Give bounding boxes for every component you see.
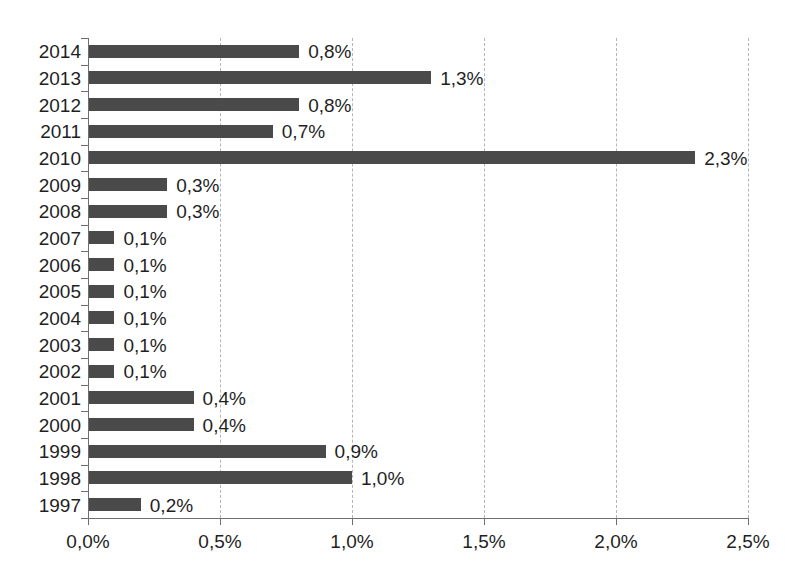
bar (88, 498, 141, 511)
y-axis-line (88, 38, 89, 518)
y-axis-tick (81, 385, 88, 386)
gridline (748, 38, 749, 518)
x-axis-label: 2,0% (594, 532, 637, 551)
y-axis-label: 2002 (0, 362, 81, 381)
bar-value-label: 0,8% (308, 42, 351, 61)
y-axis-label: 1997 (0, 496, 81, 515)
bar-value-label: 1,0% (361, 469, 404, 488)
y-axis-label: 2013 (0, 69, 81, 88)
bar-row: 0,1% (88, 251, 748, 278)
bar-row: 0,4% (88, 385, 748, 412)
y-axis-tick (81, 518, 88, 519)
y-axis-tick (81, 358, 88, 359)
bar-value-label: 0,3% (176, 202, 219, 221)
y-axis-tick (81, 118, 88, 119)
bar (88, 391, 194, 404)
bar (88, 338, 114, 351)
bar-row: 0,9% (88, 438, 748, 465)
bar (88, 71, 431, 84)
bar-value-label: 0,1% (123, 309, 166, 328)
y-axis-tick (81, 91, 88, 92)
y-axis-label: 2003 (0, 336, 81, 355)
bar-row: 2,3% (88, 145, 748, 172)
x-axis-tick (616, 518, 617, 525)
bar-value-label: 0,2% (150, 496, 193, 515)
x-axis-tick (88, 518, 89, 525)
bar-row: 0,1% (88, 278, 748, 305)
y-axis-tick (81, 491, 88, 492)
x-axis-label: 1,0% (330, 532, 373, 551)
y-axis-tick (81, 225, 88, 226)
bar (88, 178, 167, 191)
bar (88, 471, 352, 484)
y-axis-tick (81, 251, 88, 252)
bar-value-label: 0,9% (335, 442, 378, 461)
bar-value-label: 0,1% (123, 282, 166, 301)
bar-row: 0,2% (88, 491, 748, 518)
bar (88, 445, 326, 458)
bar-value-label: 0,1% (123, 229, 166, 248)
y-axis-tick (81, 65, 88, 66)
y-axis-tick (81, 171, 88, 172)
bar-row: 0,1% (88, 331, 748, 358)
y-axis-label: 2014 (0, 42, 81, 61)
y-axis-label: 1999 (0, 442, 81, 461)
y-axis-label: 2009 (0, 176, 81, 195)
bar-value-label: 0,3% (176, 176, 219, 195)
bar-row: 0,4% (88, 411, 748, 438)
x-axis-tick (220, 518, 221, 525)
bar-chart: 0,8%1,3%0,8%0,7%2,3%0,3%0,3%0,1%0,1%0,1%… (0, 0, 806, 585)
y-axis-label: 2004 (0, 309, 81, 328)
bar-value-label: 0,1% (123, 362, 166, 381)
bar (88, 365, 114, 378)
bar-row: 0,1% (88, 225, 748, 252)
bar-row: 0,3% (88, 198, 748, 225)
y-axis-label: 2012 (0, 96, 81, 115)
plot-area: 0,8%1,3%0,8%0,7%2,3%0,3%0,3%0,1%0,1%0,1%… (88, 38, 748, 518)
bar-value-label: 1,3% (440, 69, 483, 88)
bar (88, 231, 114, 244)
y-axis-tick (81, 438, 88, 439)
bar (88, 311, 114, 324)
bar-value-label: 2,3% (704, 149, 747, 168)
x-axis-label: 2,5% (726, 532, 769, 551)
y-axis-tick (81, 411, 88, 412)
y-axis-label: 2007 (0, 229, 81, 248)
bar (88, 418, 194, 431)
y-axis-label: 1998 (0, 469, 81, 488)
y-axis-label: 2006 (0, 256, 81, 275)
y-axis-label: 2005 (0, 282, 81, 301)
y-axis-tick (81, 145, 88, 146)
y-axis-tick (81, 465, 88, 466)
bar (88, 285, 114, 298)
bar-row: 1,3% (88, 65, 748, 92)
bar-value-label: 0,4% (203, 389, 246, 408)
x-axis-tick (484, 518, 485, 525)
y-axis-tick (81, 305, 88, 306)
bar-row: 0,1% (88, 358, 748, 385)
y-axis-label: 2011 (0, 122, 81, 141)
y-axis-label: 2001 (0, 389, 81, 408)
x-axis-label: 0,5% (198, 532, 241, 551)
y-axis-tick (81, 198, 88, 199)
bar (88, 98, 299, 111)
bar (88, 151, 695, 164)
y-axis-labels: 2014201320122011201020092008200720062005… (0, 38, 81, 518)
bar (88, 258, 114, 271)
x-axis-label: 0,0% (66, 532, 109, 551)
x-axis-tick (748, 518, 749, 525)
bar-row: 0,8% (88, 38, 748, 65)
bar-row: 0,8% (88, 91, 748, 118)
bar (88, 125, 273, 138)
y-axis-label: 2010 (0, 149, 81, 168)
bar-value-label: 0,7% (282, 122, 325, 141)
x-axis-line (88, 518, 748, 519)
bar (88, 45, 299, 58)
y-axis-label: 2008 (0, 202, 81, 221)
bar-value-label: 0,1% (123, 256, 166, 275)
bar-value-label: 0,4% (203, 416, 246, 435)
y-axis-tick (81, 38, 88, 39)
bar-value-label: 0,8% (308, 96, 351, 115)
y-axis-tick (81, 278, 88, 279)
bar (88, 205, 167, 218)
